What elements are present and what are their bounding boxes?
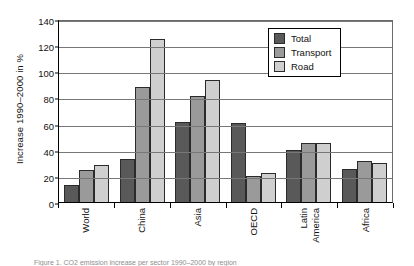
x-tick-label: World	[80, 208, 91, 233]
bar-road-world	[94, 165, 109, 202]
x-label-latin-america: LatinAmerica	[281, 208, 337, 260]
y-tick-label: 20	[43, 172, 59, 183]
legend-swatch-transport-icon	[274, 47, 285, 58]
plot-area: 020406080100120140	[58, 20, 393, 203]
bar-transport-china	[135, 87, 150, 202]
bar-transport-africa	[357, 161, 372, 202]
legend-label-total: Total	[291, 33, 311, 44]
bar-total-africa	[342, 169, 357, 202]
bar-total-asia	[175, 122, 190, 202]
gridline	[59, 47, 392, 48]
y-tick-label: 80	[43, 94, 59, 105]
x-tick-label: Asia	[192, 208, 203, 226]
x-tick-label: OECD	[248, 208, 259, 235]
bar-group	[59, 21, 115, 202]
y-tick-label: 100	[38, 68, 59, 79]
bar-group	[337, 21, 393, 202]
bar-total-latin-america	[286, 150, 301, 202]
bar-group	[170, 21, 226, 202]
legend-swatch-total-icon	[274, 33, 285, 44]
y-tick-label: 140	[38, 16, 59, 27]
bar-road-africa	[372, 163, 387, 202]
legend-label-transport: Transport	[291, 47, 331, 58]
x-tick-label: China	[136, 208, 147, 233]
bar-total-oecd	[231, 123, 246, 202]
legend-item-transport: Transport	[274, 47, 331, 58]
legend-label-road: Road	[291, 61, 314, 72]
gridline	[59, 126, 392, 127]
x-label-asia: Asia	[170, 208, 226, 260]
x-label-china: China	[114, 208, 170, 260]
x-axis-labels: WorldChinaAsiaOECDLatinAmericaAfrica	[58, 208, 393, 260]
x-tick-label: America	[310, 208, 321, 243]
legend: Total Transport Road	[268, 28, 341, 77]
legend-item-total: Total	[274, 33, 331, 44]
x-tick-label: Latin	[298, 208, 309, 229]
x-label-world: World	[58, 208, 114, 260]
bar-road-asia	[205, 80, 220, 202]
gridline	[59, 152, 392, 153]
gridline	[59, 99, 392, 100]
gridline	[59, 73, 392, 74]
figure-caption: Figure 1. CO2 emission increase per sect…	[34, 259, 406, 266]
y-tick-label: 40	[43, 146, 59, 157]
y-tick-label: 60	[43, 120, 59, 131]
y-axis-title: Increase 1990–2000 in %	[12, 14, 28, 204]
bar-total-china	[120, 159, 135, 202]
legend-item-road: Road	[274, 61, 331, 72]
x-label-oecd: OECD	[225, 208, 281, 260]
bar-transport-world	[79, 170, 94, 202]
bar-group	[115, 21, 171, 202]
bar-total-world	[64, 185, 79, 202]
gridline	[59, 178, 392, 179]
x-tick-label: Africa	[360, 208, 371, 232]
x-label-africa: Africa	[337, 208, 393, 260]
figure-bar-chart: Increase 1990–2000 in % 0204060801001201…	[0, 0, 414, 266]
bar-transport-oecd	[246, 176, 261, 202]
bar-groups	[59, 21, 392, 202]
x-tick-mark	[393, 203, 394, 208]
y-tick-label: 120	[38, 42, 59, 53]
gridline	[59, 21, 392, 22]
legend-swatch-road-icon	[274, 61, 285, 72]
bar-transport-asia	[190, 96, 205, 202]
